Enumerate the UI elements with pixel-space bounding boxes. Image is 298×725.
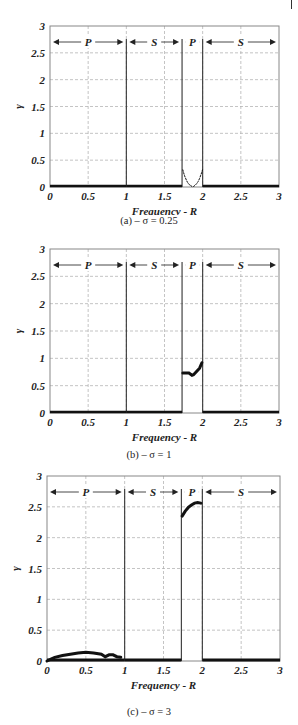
arrow-head-left-icon	[50, 489, 56, 495]
y-tick-label: 2.5	[30, 47, 45, 59]
y-tick-label: 1.5	[31, 101, 45, 113]
region-label: P	[82, 486, 89, 498]
chart-panel-b: PSPS00.511.522.5300.511.522.53Frequency …	[0, 235, 298, 470]
x-tick-label: 2.5	[233, 190, 248, 202]
x-tick-label: 0.5	[81, 190, 95, 202]
arrow-head-left-icon	[129, 262, 135, 268]
y-tick-label: 1	[40, 352, 46, 364]
y-tick-label: 0	[40, 181, 46, 193]
data-curve	[182, 503, 201, 517]
grid	[47, 476, 280, 661]
x-tick-label: 1	[124, 190, 130, 202]
arrow-head-right-icon	[116, 489, 122, 495]
region-label: P	[189, 36, 196, 48]
x-tick-label: 0.5	[81, 416, 95, 428]
x-tick-label: 0	[44, 664, 50, 676]
x-tick-label: 2	[199, 416, 206, 428]
y-tick-label: 0	[40, 407, 46, 419]
x-axis-label: Frequency - R	[130, 679, 196, 691]
caption-c: (c) – σ = 3	[0, 706, 298, 717]
x-tick-label: 1.5	[158, 416, 172, 428]
caption-b: (b) – σ = 1	[0, 449, 298, 460]
region-s-arrow: S	[206, 34, 276, 48]
x-tick-label: 3	[275, 416, 282, 428]
region-p-arrow: P	[185, 34, 200, 48]
chart-c: PSPS00.511.522.5300.511.522.53Frequency …	[0, 466, 298, 706]
arrow-head-right-icon	[173, 262, 179, 268]
region-p-arrow: P	[53, 34, 123, 48]
chart-a: PSPS00.511.522.5300.511.522.53Frequency …	[0, 0, 298, 215]
arrow-head-right-icon	[172, 489, 178, 495]
region-label: P	[189, 259, 196, 271]
region-s-arrow: S	[205, 484, 277, 498]
region-label: S	[151, 36, 157, 48]
arrow-head-left-icon	[205, 489, 211, 495]
x-axis-label: Frequency - R	[131, 431, 197, 443]
arrow-head-left-icon	[53, 262, 59, 268]
grid	[50, 249, 279, 413]
arrow-head-left-icon	[128, 489, 134, 495]
y-tick-label: 3	[36, 470, 43, 482]
region-label: S	[238, 259, 244, 271]
region-label: P	[188, 486, 195, 498]
x-tick-label: 2	[199, 190, 206, 202]
arrow-head-left-icon	[129, 39, 135, 45]
region-label: S	[238, 486, 244, 498]
x-tick-label: 1.5	[158, 190, 172, 202]
arrow-head-right-icon	[270, 262, 276, 268]
x-tick-label: 0	[47, 416, 53, 428]
y-tick-label: 2.5	[30, 270, 45, 282]
region-label: S	[150, 486, 156, 498]
region-p-arrow: P	[50, 484, 122, 498]
x-tick-label: 1	[122, 664, 128, 676]
arrow-head-left-icon	[206, 262, 212, 268]
region-s-arrow: S	[206, 257, 276, 271]
y-tick-label: 0.5	[31, 380, 45, 392]
region-s-arrow: S	[129, 34, 179, 48]
y-tick-label: 1	[40, 127, 46, 139]
data-curve	[183, 363, 202, 376]
data-curve	[183, 169, 203, 186]
x-tick-label: 0	[47, 190, 53, 202]
arrow-head-right-icon	[117, 39, 123, 45]
arrow-head-right-icon	[270, 39, 276, 45]
x-axis-label: Frequency - R	[131, 205, 197, 215]
y-tick-label: 1.5	[28, 563, 42, 575]
x-tick-label: 3	[275, 190, 282, 202]
y-tick-label: 0	[37, 655, 43, 667]
x-tick-label: 2	[199, 664, 206, 676]
y-tick-label: 0.5	[31, 154, 45, 166]
x-tick-label: 2.5	[233, 664, 248, 676]
region-label: P	[85, 36, 92, 48]
y-tick-label: 3	[39, 243, 46, 255]
region-p-arrow: P	[185, 257, 200, 271]
region-label: P	[85, 259, 92, 271]
y-tick-label: 2	[39, 74, 46, 86]
y-tick-label: 2	[39, 298, 46, 310]
x-tick-label: 1	[124, 416, 130, 428]
y-axis-label: γ	[12, 104, 24, 109]
region-s-arrow: S	[129, 257, 179, 271]
grid	[50, 26, 279, 187]
y-tick-label: 0.5	[28, 624, 42, 636]
chart-panel-c: PSPS00.511.522.5300.511.522.53Frequency …	[0, 466, 298, 725]
arrow-head-left-icon	[53, 39, 59, 45]
y-tick-label: 1.5	[31, 325, 45, 337]
x-tick-label: 3	[276, 664, 283, 676]
arrow-head-right-icon	[117, 262, 123, 268]
x-tick-label: 2.5	[233, 416, 248, 428]
x-tick-label: 1.5	[157, 664, 171, 676]
y-tick-label: 3	[39, 20, 46, 32]
caption-a: (a) – σ = 0.25	[0, 215, 298, 226]
arrow-head-right-icon	[271, 489, 277, 495]
region-label: S	[151, 259, 157, 271]
y-tick-label: 2	[36, 532, 43, 544]
y-tick-label: 2.5	[27, 501, 42, 513]
region-p-arrow: P	[53, 257, 123, 271]
arrow-head-left-icon	[206, 39, 212, 45]
y-tick-label: 1	[37, 593, 43, 605]
region-p-arrow: P	[184, 484, 199, 498]
chart-b: PSPS00.511.522.5300.511.522.53Frequency …	[0, 235, 298, 450]
chart-panel-a: PSPS00.511.522.5300.511.522.53Frequency …	[0, 0, 298, 235]
y-axis-label: γ	[9, 566, 21, 571]
